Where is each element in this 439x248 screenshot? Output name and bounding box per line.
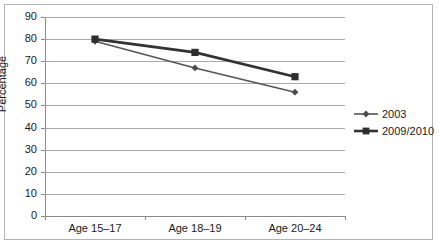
x-axis-tick-mark	[345, 216, 346, 220]
y-axis-tick-label: 50	[9, 99, 37, 110]
legend-marker-square-icon	[353, 124, 379, 138]
gridline	[45, 105, 345, 106]
x-axis-category-label: Age 18–19	[145, 222, 245, 234]
legend-label-2009-2010: 2009/2010	[382, 125, 434, 137]
legend-item-2009-2010: 2009/2010	[353, 122, 433, 139]
y-axis-tick-label: 0	[9, 210, 37, 221]
gridline	[45, 216, 345, 217]
gridline	[45, 150, 345, 151]
y-axis-tick-label: 70	[9, 55, 37, 66]
y-axis-line	[45, 17, 46, 216]
legend-marker-diamond-icon	[353, 107, 379, 121]
gridline	[45, 172, 345, 173]
y-axis-tick-label: 20	[9, 166, 37, 177]
legend-item-2003: 2003	[353, 105, 433, 122]
gridline	[45, 61, 345, 62]
x-axis-tick-mark	[145, 216, 146, 220]
legend-label-2003: 2003	[382, 108, 406, 120]
y-axis-tick-label: 30	[9, 144, 37, 155]
y-axis-tick-label: 40	[9, 122, 37, 133]
x-axis-tick-mark	[245, 216, 246, 220]
gridline	[45, 83, 345, 84]
chart-figure: Percentage 0102030405060708090 Age 15–17…	[0, 0, 439, 248]
chart-legend: 2003 2009/2010	[353, 105, 433, 139]
y-axis-tick-label: 60	[9, 77, 37, 88]
gridline	[45, 128, 345, 129]
y-axis-tick-label: 80	[9, 33, 37, 44]
gridline	[45, 17, 345, 18]
x-axis-tick-mark	[45, 216, 46, 220]
y-axis-tick-label: 10	[9, 188, 37, 199]
x-axis-category-label: Age 15–17	[45, 222, 145, 234]
x-axis-category-label: Age 20–24	[245, 222, 345, 234]
gridline	[45, 194, 345, 195]
y-axis-tick-label: 90	[9, 11, 37, 22]
y-axis-title: Percentage	[0, 56, 8, 112]
gridline	[45, 39, 345, 40]
